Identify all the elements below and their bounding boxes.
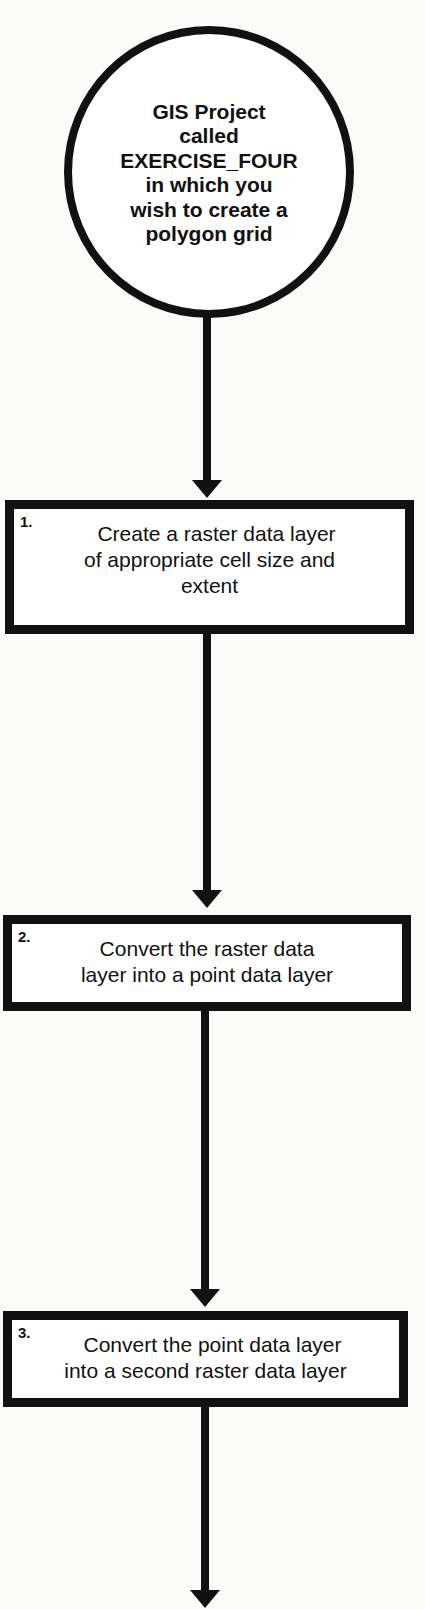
step-1-label: Create a raster data layer of appropriat…	[14, 509, 405, 599]
start-line: in which you	[89, 173, 329, 198]
step-3-line: Convert the point data layer	[12, 1332, 399, 1358]
connector-line-3	[201, 1009, 209, 1291]
arrow-down-icon	[190, 1289, 220, 1307]
start-node-circle: GIS Project called EXERCISE_FOUR in whic…	[64, 26, 354, 318]
start-line: GIS Project	[89, 100, 329, 125]
step-2-line: layer into a point data layer	[12, 962, 402, 988]
arrow-down-icon	[190, 1590, 220, 1608]
connector-line-2	[203, 632, 211, 892]
step-3-line: into a second raster data layer	[12, 1358, 399, 1384]
step-2-line: Convert the raster data	[12, 936, 402, 962]
step-1-line: extent	[14, 573, 405, 599]
arrow-down-icon	[192, 480, 222, 498]
step-1-line: of appropriate cell size and	[14, 547, 405, 573]
step-3-number: 3.	[18, 1324, 31, 1341]
step-1-line: Create a raster data layer	[14, 521, 405, 547]
step-2-label: Convert the raster data layer into a poi…	[12, 924, 402, 988]
start-line: EXERCISE_FOUR	[89, 149, 329, 174]
arrow-down-icon	[192, 890, 222, 908]
step-1-number: 1.	[20, 513, 33, 530]
step-1-box: 1. Create a raster data layer of appropr…	[5, 500, 414, 634]
step-2-box: 2. Convert the raster data layer into a …	[3, 915, 411, 1011]
start-line: polygon grid	[89, 222, 329, 247]
start-line: wish to create a	[89, 198, 329, 223]
connector-line-1	[203, 310, 211, 482]
start-node-text: GIS Project called EXERCISE_FOUR in whic…	[89, 98, 329, 247]
step-3-label: Convert the point data layer into a seco…	[12, 1320, 399, 1384]
step-3-box: 3. Convert the point data layer into a s…	[3, 1311, 408, 1407]
step-2-number: 2.	[18, 928, 31, 945]
start-line: called	[89, 124, 329, 149]
connector-line-4	[201, 1405, 209, 1592]
